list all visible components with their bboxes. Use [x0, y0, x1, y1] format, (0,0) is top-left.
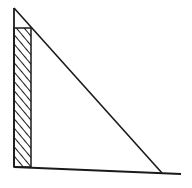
- base-line: [14, 167, 181, 174]
- triangle-diagram: [0, 0, 192, 188]
- hatched-rectangle: [14, 28, 31, 167]
- hypotenuse: [14, 8, 162, 173]
